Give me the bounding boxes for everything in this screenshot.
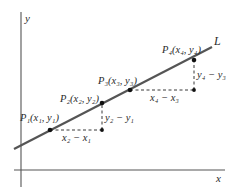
point-p4	[192, 58, 197, 63]
point-p4-label: P₄(x₄, y₄)	[162, 45, 201, 56]
y-axis-label: y	[25, 13, 30, 24]
point-p3-label: P₃(x₃, y₃)	[98, 76, 137, 87]
line-diagram	[0, 0, 235, 194]
point-p1-label: P₁(x₁, y₁)	[20, 113, 59, 124]
point-p1	[48, 128, 53, 133]
x-axis-label: x	[216, 173, 221, 184]
corner-1-dot	[100, 128, 104, 132]
line-L-label: L	[214, 35, 221, 47]
point-p3	[128, 88, 133, 93]
rise-2-label: y₄ − y₃	[197, 70, 226, 81]
point-p2-label: P₂(x₂, y₂)	[60, 94, 99, 105]
rise-1-label: y₂ − y₁	[105, 113, 134, 124]
run-2-label: x₄ − x₃	[150, 93, 179, 104]
line-L	[14, 47, 212, 149]
point-p2	[100, 101, 105, 106]
corner-2-dot	[192, 88, 196, 92]
run-1-label: x₂ − x₁	[62, 133, 91, 144]
